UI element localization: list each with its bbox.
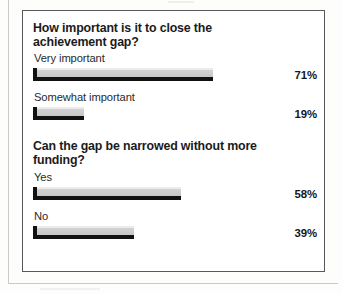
bar-fill [33, 226, 134, 239]
scan-artifact [40, 288, 100, 290]
bar-track: 71% [33, 68, 317, 83]
bar-track: 39% [33, 226, 317, 241]
bar-fill [33, 187, 181, 200]
bar-value-label: 58% [295, 188, 318, 200]
bar-row: Somewhat important 19% [33, 91, 315, 130]
question-heading: How important is it to close the achieve… [33, 21, 265, 50]
bar-row: Very important 71% [33, 52, 315, 91]
bar-row: Yes 58% [33, 171, 315, 210]
bar-value-label: 19% [295, 108, 318, 120]
page-edge-line-left [8, 0, 9, 284]
chart-frame: How important is it to close the achieve… [22, 10, 325, 272]
bar-fill [33, 107, 84, 120]
bar-track: 58% [33, 187, 317, 202]
bar-fill [33, 68, 213, 81]
scan-artifact [168, 1, 194, 3]
scanned-page: How important is it to close the achieve… [0, 0, 342, 293]
bar-category-label: Yes [34, 171, 315, 184]
question-heading: Can the gap be narrowed without more fun… [33, 139, 265, 168]
question-group: How important is it to close the achieve… [33, 21, 315, 130]
bar-value-label: 39% [295, 227, 318, 239]
bar-category-label: Somewhat important [34, 91, 315, 104]
bar-track: 19% [33, 107, 317, 122]
bar-row: No 39% [33, 210, 315, 249]
bar-category-label: No [34, 210, 315, 223]
page-edge-line-bottom [8, 283, 338, 284]
bar-category-label: Very important [34, 52, 315, 65]
bar-value-label: 71% [295, 69, 318, 81]
question-group: Can the gap be narrowed without more fun… [33, 139, 315, 249]
